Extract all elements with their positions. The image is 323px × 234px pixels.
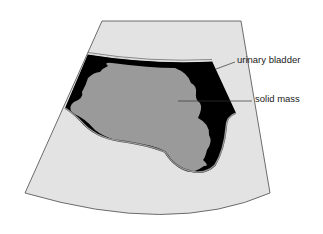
solid-mass-label: solid mass [255,93,300,104]
urinary-bladder-label: urinary bladder [237,54,300,65]
ultrasound-diagram [0,0,323,234]
